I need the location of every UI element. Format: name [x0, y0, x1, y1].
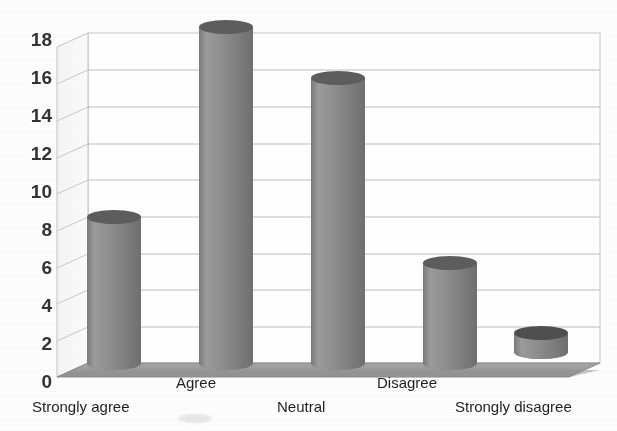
plot-area: [0, 0, 617, 431]
category-label-neutral: Neutral: [277, 399, 325, 414]
scan-smudge: [178, 414, 212, 423]
category-label-disagree: Disagree: [377, 375, 437, 390]
bar-strongly-agree: [87, 210, 141, 370]
floor-front-lip: [57, 370, 600, 377]
bar-agree: [199, 20, 253, 370]
bar-neutral: [311, 71, 365, 370]
category-label-agree: Agree: [176, 375, 216, 390]
category-label-strongly-agree: Strongly agree: [32, 399, 130, 414]
category-label-strongly-disagree: Strongly disagree: [455, 399, 572, 414]
bar-disagree: [423, 256, 477, 370]
chart-root: 18 16 14 12 10 8 6 4 2 0: [0, 0, 617, 431]
bar-strongly-disagree: [514, 326, 568, 359]
plot-left-wall: [57, 33, 88, 377]
